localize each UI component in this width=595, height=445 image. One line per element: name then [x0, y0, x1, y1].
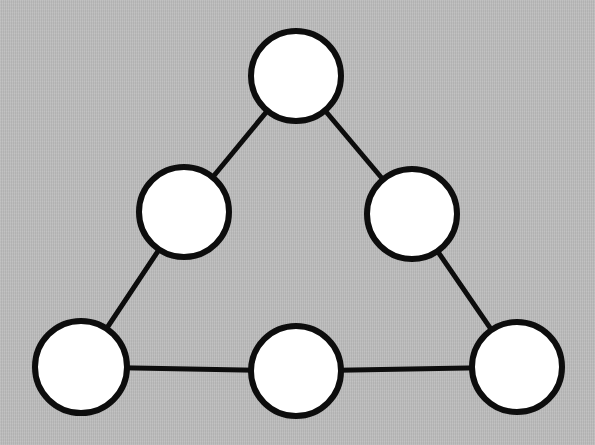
graph-node-bottom-left[interactable]	[35, 321, 127, 413]
graph-node-top[interactable]	[251, 31, 341, 121]
graph-svg	[0, 0, 595, 445]
node-circle-mid-right[interactable]	[367, 169, 457, 259]
node-circle-bottom-left[interactable]	[35, 321, 127, 413]
node-layer	[35, 31, 562, 416]
graph-node-bottom-right[interactable]	[472, 322, 562, 412]
node-circle-bottom-center[interactable]	[251, 326, 341, 416]
node-circle-mid-left[interactable]	[139, 167, 229, 257]
node-circle-top[interactable]	[251, 31, 341, 121]
graph-diagram-canvas	[0, 0, 595, 445]
graph-node-mid-left[interactable]	[139, 167, 229, 257]
graph-node-mid-right[interactable]	[367, 169, 457, 259]
node-circle-bottom-right[interactable]	[472, 322, 562, 412]
graph-node-bottom-center[interactable]	[251, 326, 341, 416]
